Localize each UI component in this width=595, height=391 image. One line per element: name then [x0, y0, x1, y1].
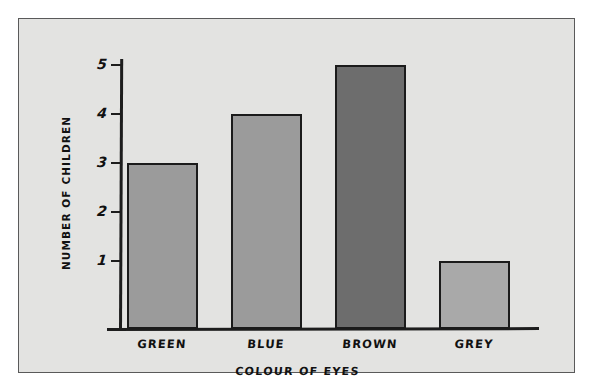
y-tick-label-3-wrap: 3: [77, 155, 107, 169]
y-tick-label-1: 1: [84, 253, 107, 267]
x-category-label-grey: GREY: [413, 337, 534, 351]
y-tick-label-5-wrap: 5: [77, 57, 107, 71]
chart-page: 5 4 3 2 1 NUMBER OF CHILDREN GREEN: [0, 0, 595, 391]
bar-green: [127, 163, 198, 329]
x-category-label-brown: BROWN: [309, 337, 430, 351]
y-tick-2: [111, 211, 121, 213]
x-category-label-blue: BLUE: [205, 337, 326, 351]
y-axis-line: [119, 59, 123, 331]
plot-area: 5 4 3 2 1 NUMBER OF CHILDREN GREEN: [19, 19, 574, 372]
y-tick-label-4-wrap: 4: [77, 106, 107, 120]
x-category-label-green: GREEN: [101, 337, 222, 351]
bar-grey: [439, 261, 510, 329]
y-tick-label-2-wrap: 2: [77, 204, 107, 218]
y-tick-label-1-wrap: 1: [77, 253, 107, 267]
y-axis-title: NUMBER OF CHILDREN: [60, 103, 72, 283]
bar-brown: [335, 65, 406, 329]
chart-frame: 5 4 3 2 1 NUMBER OF CHILDREN GREEN: [18, 18, 575, 373]
y-tick-4: [111, 113, 121, 115]
y-tick-label-5: 5: [84, 57, 107, 71]
bar-blue: [231, 114, 302, 329]
y-tick-1: [111, 260, 121, 262]
y-tick-label-2: 2: [84, 204, 107, 218]
y-tick-3: [111, 162, 121, 164]
y-tick-label-4: 4: [84, 106, 107, 120]
x-axis-title: COLOUR OF EYES: [18, 365, 576, 378]
y-tick-label-3: 3: [84, 155, 107, 169]
y-tick-5: [111, 64, 121, 66]
